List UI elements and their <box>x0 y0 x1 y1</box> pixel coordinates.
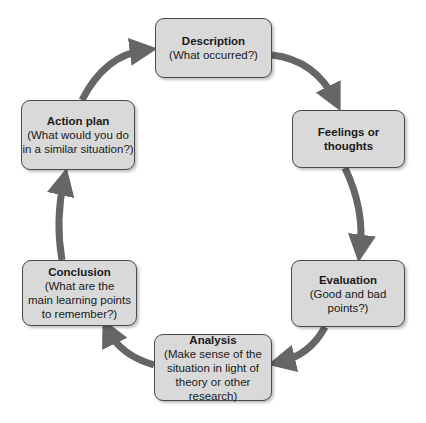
node-subtitle: (Good and bad points?) <box>310 287 387 315</box>
arrow-analysis-to-conclusion <box>108 330 154 365</box>
node-title: Description <box>182 34 245 48</box>
node-title: Feelings or thoughts <box>318 125 379 153</box>
node-subtitle: (What are the main learning points to re… <box>28 279 131 321</box>
arrow-conclusion-to-action <box>59 180 64 260</box>
node-subtitle: (What occurred?) <box>169 48 258 62</box>
node-conclusion: Conclusion (What are the main learning p… <box>22 260 137 326</box>
arrow-feelings-to-evaluation <box>345 168 361 250</box>
node-title: Analysis <box>189 333 236 347</box>
node-title: Evaluation <box>319 273 377 287</box>
node-evaluation: Evaluation (Good and bad points?) <box>291 260 405 327</box>
node-description: Description (What occurred?) <box>155 18 272 78</box>
node-action-plan: Action plan (What would you do in a simi… <box>21 100 135 170</box>
node-subtitle: (What would you do in a similar situatio… <box>22 128 133 156</box>
arrow-action-to-description <box>82 50 145 100</box>
arrow-evaluation-to-analysis <box>280 327 325 362</box>
node-title: Conclusion <box>48 265 111 279</box>
node-feelings: Feelings or thoughts <box>292 110 405 168</box>
arrow-description-to-feelings <box>272 55 335 100</box>
node-subtitle: (Make sense of the situation in light of… <box>155 347 271 403</box>
node-analysis: Analysis (Make sense of the situation in… <box>154 334 272 401</box>
node-title: Action plan <box>47 114 110 128</box>
